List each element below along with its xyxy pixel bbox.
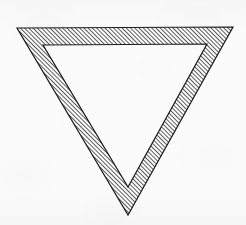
- hatched-band-fill: [0, 0, 246, 225]
- triangle-figure: [0, 0, 246, 225]
- figure-canvas: [0, 0, 246, 225]
